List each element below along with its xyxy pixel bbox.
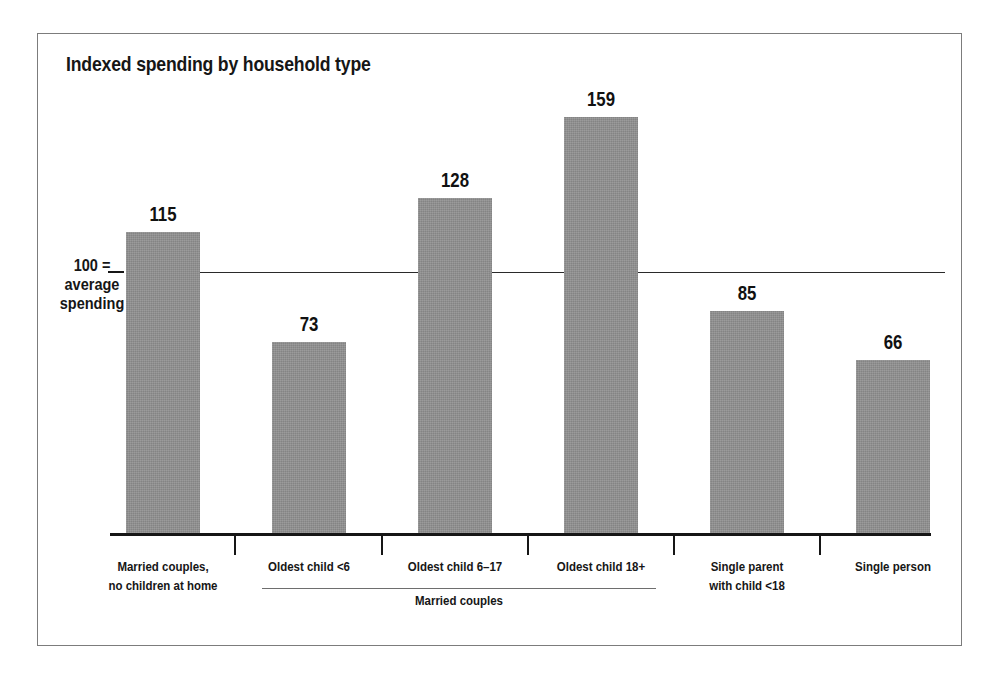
bar-single-parent-with-child (710, 311, 784, 533)
category-label-oldest-child-under-6: Oldest child <6 (248, 557, 370, 576)
category-label-line-1: Oldest child 18+ (540, 557, 662, 576)
bar-value-label: 159 (570, 88, 632, 111)
bar-oldest-child-18-plus (564, 117, 638, 533)
reference-axis-label: 100 = average spending (50, 256, 134, 313)
bar-single-person (856, 360, 930, 533)
category-label-line-2: with child <18 (686, 576, 808, 595)
chart-figure: Indexed spending by household type 100 =… (0, 0, 993, 681)
bar-value-label: 73 (278, 313, 340, 336)
bar-value-label: 85 (716, 282, 778, 305)
category-label-line-1: Oldest child <6 (248, 557, 370, 576)
chart-plot-area: Indexed spending by household type 100 =… (0, 0, 993, 681)
category-label-single-person: Single person (832, 557, 954, 576)
bar-oldest-child-6-17 (418, 198, 492, 533)
category-label-married-couples-no-children: Married couples, no children at home (89, 557, 237, 595)
reference-label-line-2: average (50, 275, 134, 294)
reference-label-line-3: spending (50, 294, 134, 313)
category-label-line-1: Oldest child 6–17 (394, 557, 516, 576)
category-label-line-1: Single person (832, 557, 954, 576)
category-separator-tick (527, 536, 529, 555)
category-separator-tick (234, 536, 236, 555)
chart-title: Indexed spending by household type (66, 52, 371, 76)
group-bracket-line (262, 588, 656, 589)
category-label-oldest-child-6-17: Oldest child 6–17 (394, 557, 516, 576)
category-separator-tick (673, 536, 675, 555)
group-label-married-couples: Married couples (288, 593, 631, 608)
category-label-line-1: Single parent (686, 557, 808, 576)
bar-value-label: 66 (862, 331, 924, 354)
reference-line-100 (126, 272, 945, 274)
bar-married-couples-no-children (126, 232, 200, 533)
reference-tick-mark (108, 271, 124, 273)
category-separator-tick (819, 536, 821, 555)
category-separator-tick (381, 536, 383, 555)
bar-oldest-child-under-6 (272, 342, 346, 533)
category-label-line-2: no children at home (89, 576, 237, 595)
category-label-oldest-child-18-plus: Oldest child 18+ (540, 557, 662, 576)
category-label-line-1: Married couples, (89, 557, 237, 576)
bar-value-label: 128 (424, 169, 486, 192)
category-label-single-parent-with-child: Single parent with child <18 (686, 557, 808, 595)
bar-value-label: 115 (132, 203, 194, 226)
